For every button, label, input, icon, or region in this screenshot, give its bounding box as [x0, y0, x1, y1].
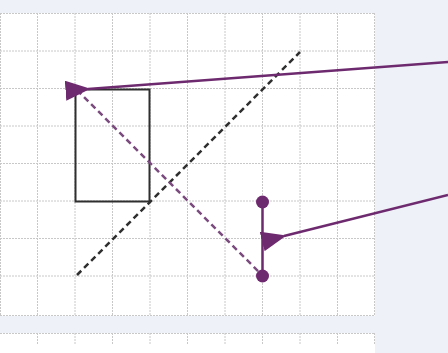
black-dashed-diagonal	[77, 52, 300, 275]
arrow-to-rectangle-corner	[88, 62, 448, 89]
segment-endpoint-bottom	[256, 270, 269, 283]
grid-lines	[0, 13, 375, 344]
segment-endpoint-top	[256, 196, 269, 209]
